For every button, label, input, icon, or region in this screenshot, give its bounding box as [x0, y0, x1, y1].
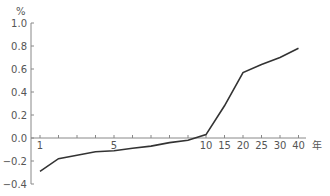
y-axis-label: %: [16, 6, 26, 17]
y-tick-label: 0.2: [11, 110, 27, 121]
data-line: [40, 48, 299, 171]
y-tick-label: −0.2: [3, 156, 27, 167]
x-tick-label: 1: [37, 140, 43, 151]
y-axis: 1.00.80.60.40.20.0−0.2−0.4: [3, 18, 34, 190]
x-tick-label: 10: [200, 140, 213, 151]
y-tick-label: 0.4: [11, 87, 27, 98]
x-tick-label: 20: [237, 140, 250, 151]
y-tick-label: 0.8: [11, 41, 27, 52]
x-tick-label: 15: [218, 140, 231, 151]
y-tick-label: −0.4: [3, 179, 27, 190]
y-tick-label: 1.0: [11, 18, 27, 29]
x-tick-label: 30: [274, 140, 287, 151]
x-tick-label: 40: [292, 140, 305, 151]
y-tick-label: 0.6: [11, 64, 27, 75]
x-axis-label: 年: [312, 139, 322, 151]
line-chart: 1.00.80.60.40.20.0−0.2−0.4 1510152025304…: [0, 0, 330, 196]
x-tick-label: 25: [255, 140, 268, 151]
x-tick-label: 5: [111, 140, 117, 151]
y-tick-label: 0.0: [11, 133, 27, 144]
